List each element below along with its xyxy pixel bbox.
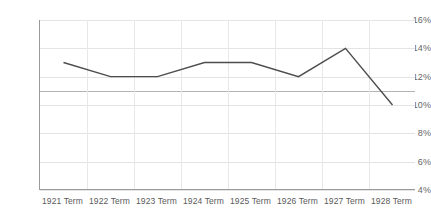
series-line-0 <box>64 48 393 105</box>
x-tick-label: 1923 Term <box>133 196 180 206</box>
x-tick-label: 1926 Term <box>274 196 321 206</box>
x-tick-label: 1921 Term <box>39 196 86 206</box>
gridline-horizontal <box>40 190 415 191</box>
x-tick-label: 1927 Term <box>321 196 368 206</box>
x-tick-label: 1928 Term <box>368 196 415 206</box>
series-line-group <box>40 20 416 190</box>
x-tick-label: 1922 Term <box>86 196 133 206</box>
x-tick-label: 1925 Term <box>227 196 274 206</box>
plot-area <box>39 20 415 190</box>
x-tick-label: 1924 Term <box>180 196 227 206</box>
line-chart: 4%6%8%10%12%14%16% 1921 Term1922 Term192… <box>0 0 431 215</box>
